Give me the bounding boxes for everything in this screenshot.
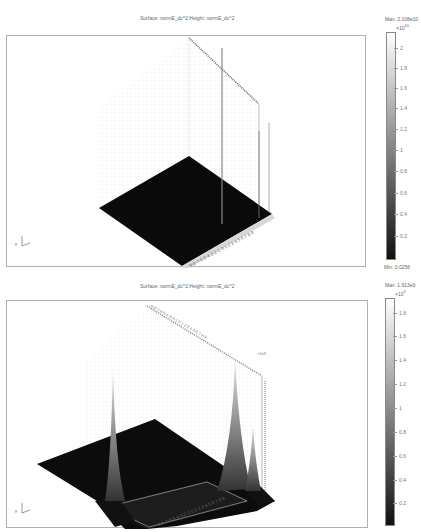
- plot-2-colorbar-tick: 1.4: [399, 357, 406, 363]
- plot-1-colorbar: [386, 32, 396, 260]
- plot-2-colorbar-tick: 0.4: [399, 477, 406, 483]
- axis-triad-icon: y: [14, 501, 34, 517]
- plot-1-colorbar-tick: 0.8: [400, 168, 407, 174]
- plot-1-colorbar-exponent: ×1010: [396, 23, 409, 31]
- plot-2-colorbar-tick: 0.2: [399, 500, 406, 506]
- plot-2-colorbar-exponent: ×109: [395, 289, 406, 297]
- plot-2-canvas[interactable]: ×1e9 -9-8-7-6-5-4-3-2-1 0 1 2 3 4 5 6 7 …: [6, 300, 368, 528]
- plot-1-colorbar-min: Min: 0.0256: [384, 264, 410, 270]
- plot-1-canvas[interactable]: -9-8-7-6-5-4-3-2-1 0 1 2 3 4 5 6 7 8 9 y: [6, 35, 366, 267]
- plot-1-colorbar-tick: 1: [400, 147, 403, 153]
- plot-1-colorbar-tick: 2: [400, 45, 403, 51]
- svg-text:y: y: [15, 241, 17, 246]
- plot-2-colorbar-max: Max: 1.913e9: [385, 282, 415, 288]
- plot-2-surface: ×1e9 -9-8-7-6-5-4-3-2-1 0 1 2 3 4 5 6 7 …: [7, 301, 369, 529]
- plot-1-colorbar-tick: 1.4: [400, 105, 407, 111]
- plot-1-colorbar-tick: 1.8: [400, 65, 407, 71]
- axis-triad-icon: y: [14, 234, 34, 250]
- plot-2-title: Surface: normE_dc^2 Height: normE_dc^2: [140, 283, 234, 289]
- plot-1-surface: -9-8-7-6-5-4-3-2-1 0 1 2 3 4 5 6 7 8 9: [7, 36, 367, 268]
- plot-2-colorbar-tick: 1.6: [399, 333, 406, 339]
- plot-1-colorbar-tick: 0.6: [400, 190, 407, 196]
- plot-2-colorbar-tick: 1.8: [399, 310, 406, 316]
- plot-1-colorbar-tick: 0.4: [400, 211, 407, 217]
- plot-2-colorbar-tick: 1.2: [399, 381, 406, 387]
- plot-2-colorbar-tick: 0.8: [399, 429, 406, 435]
- plot-1-colorbar-max: Max: 2.108e10: [385, 16, 418, 22]
- plot-1-colorbar-tick: 1.6: [400, 85, 407, 91]
- plot-2-colorbar-tick: 0.6: [399, 453, 406, 459]
- plot-2-colorbar: [385, 298, 395, 526]
- plot-2-colorbar-tick: 1: [399, 405, 402, 411]
- plot-1-colorbar-tick: 0.2: [400, 233, 407, 239]
- plot-1-title: Surface: normE_dc^2 Height: normE_dc^2: [140, 15, 234, 21]
- plot-1-colorbar-tick: 1.2: [400, 126, 407, 132]
- svg-text:y: y: [15, 508, 17, 513]
- z-axis-multiplier: ×1e9: [257, 351, 267, 356]
